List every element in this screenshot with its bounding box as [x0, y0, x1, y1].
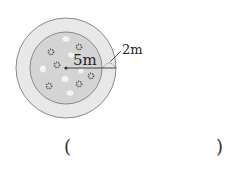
circular-garden-diagram: 5m 2m: [0, 0, 238, 169]
answer-open-paren: (: [64, 136, 71, 157]
ring-width-label: 2m: [122, 42, 143, 57]
inner-radius-label: 5m: [73, 51, 97, 69]
answer-close-paren: ): [216, 136, 223, 157]
